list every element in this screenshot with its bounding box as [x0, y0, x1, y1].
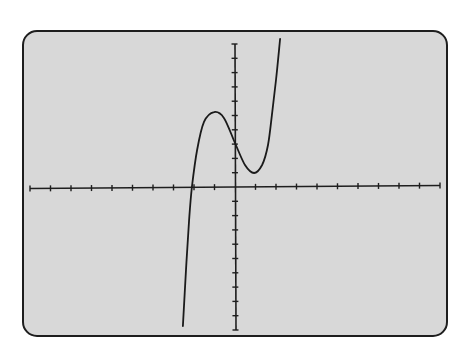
- graph-window: [0, 0, 453, 340]
